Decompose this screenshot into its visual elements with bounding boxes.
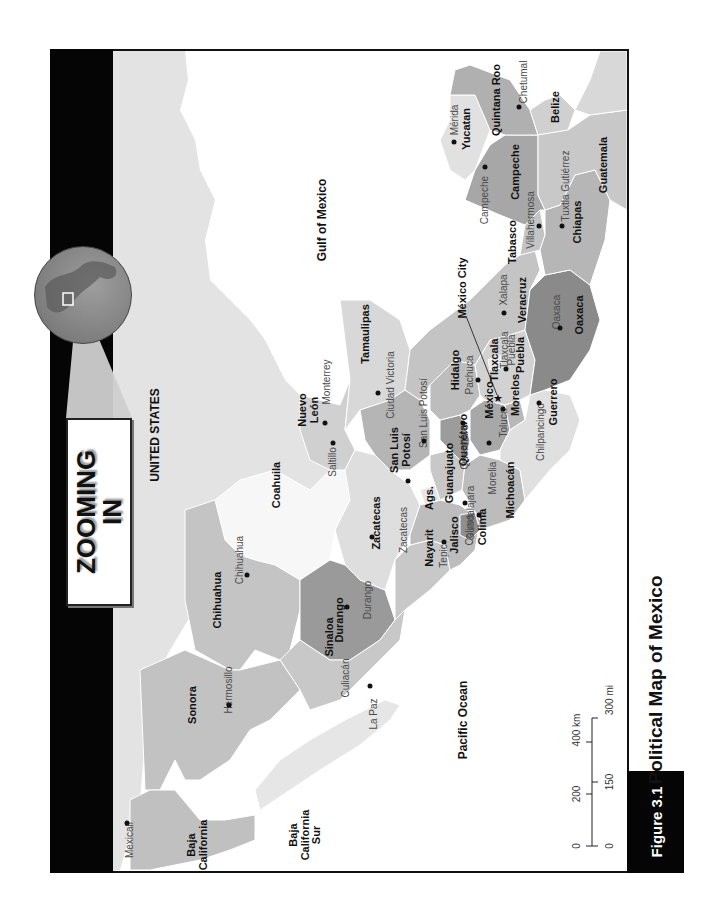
figure-number: Figure 3.1 — [648, 787, 665, 858]
scale-mi-0: 0 — [604, 843, 615, 849]
scale-mi-150: 150 — [604, 774, 615, 791]
scale-km-0: 0 — [571, 843, 582, 849]
scale-km-200: 200 — [571, 786, 582, 803]
scale-km-400: 400 km — [571, 714, 582, 747]
figure-title: Political Map of Mexico — [645, 575, 667, 784]
scale-mi-300: 300 mi — [604, 685, 615, 715]
